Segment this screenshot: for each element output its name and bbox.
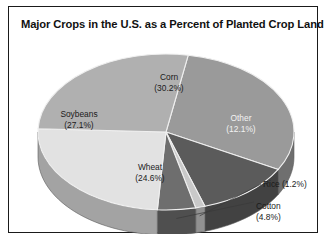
slice-label-other-name: Other — [231, 113, 252, 123]
slice-label-corn-value: (30.2%) — [154, 83, 184, 93]
slice-label-other-value: (12.1%) — [226, 124, 256, 134]
slice-label-soybeans-name: Soybeans — [60, 109, 97, 119]
pie-chart-svg: Corn (30.2%) Other (12.1%) Soybeans (27.… — [9, 7, 319, 234]
pie-side-rice — [196, 206, 205, 233]
slice-label-soybeans-value: (27.1%) — [64, 120, 94, 130]
pie-side-cotton — [157, 208, 195, 234]
chart-frame: Major Crops in the U.S. as a Percent of … — [8, 6, 318, 233]
pie-chart-area: Corn (30.2%) Other (12.1%) Soybeans (27.… — [9, 7, 319, 234]
slice-label-cotton-name: Cotton — [256, 201, 281, 211]
slice-label-cotton-value: (4.8%) — [256, 212, 281, 222]
slice-label-corn-name: Corn — [160, 72, 178, 82]
slice-label-wheat-name: Wheat — [138, 162, 163, 172]
slice-label-wheat-value: (24.6%) — [135, 173, 165, 183]
slice-label-rice: Rice (1.2%) — [263, 179, 307, 189]
